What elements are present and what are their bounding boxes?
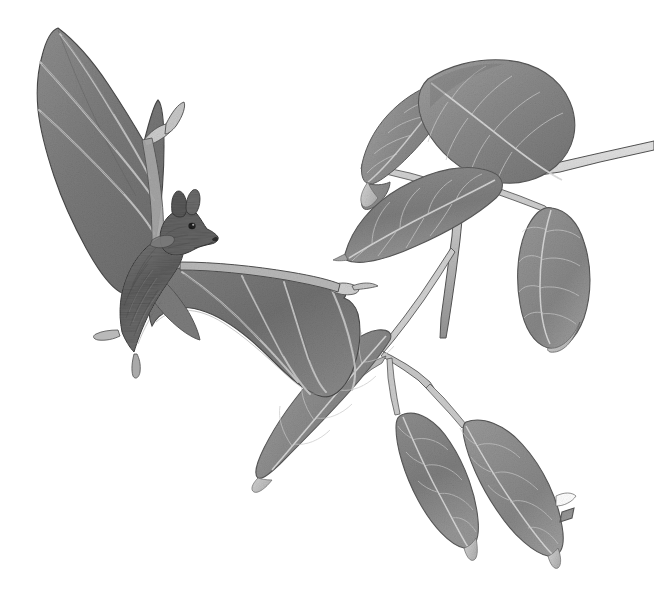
illustration-canvas: Bat in flight beside a leafy branch grap… <box>0 0 654 594</box>
paper-overlay <box>0 0 654 594</box>
bat-and-branch-drawing <box>0 0 654 594</box>
